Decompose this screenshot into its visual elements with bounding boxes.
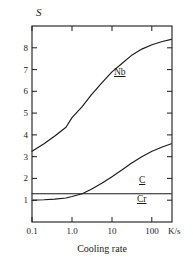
y-tick-label-3: 3 bbox=[14, 152, 28, 162]
x-tick-label-100: 100 bbox=[140, 226, 164, 236]
axes-frame bbox=[32, 26, 172, 222]
y-tick-label-1: 1 bbox=[14, 195, 28, 205]
y-axis-ticks bbox=[32, 48, 172, 200]
x-tick-label-1-0: 1.0 bbox=[60, 226, 84, 236]
y-tick-label-5: 5 bbox=[14, 108, 28, 118]
curve-nb bbox=[32, 39, 171, 151]
y-tick-label-6: 6 bbox=[14, 86, 28, 96]
curve-label-cr: Cr bbox=[137, 194, 147, 204]
x-axis-title: Cooling rate bbox=[42, 243, 162, 254]
x-axis-unit-label: K/s bbox=[168, 226, 181, 236]
data-curves bbox=[32, 39, 171, 200]
y-tick-label-2: 2 bbox=[14, 173, 28, 183]
x-tick-label-0-1: 0.1 bbox=[20, 226, 44, 236]
x-axis-ticks bbox=[32, 26, 152, 222]
x-tick-label-10: 10 bbox=[100, 226, 124, 236]
y-tick-label-4: 4 bbox=[14, 130, 28, 140]
plot-frame bbox=[32, 26, 172, 222]
y-tick-label-7: 7 bbox=[14, 65, 28, 75]
curve-c bbox=[32, 144, 171, 201]
chart-figure: S bbox=[0, 0, 193, 267]
curve-label-nb: Nb bbox=[114, 67, 126, 77]
y-tick-label-8: 8 bbox=[14, 43, 28, 53]
curve-label-c: C bbox=[139, 175, 145, 185]
